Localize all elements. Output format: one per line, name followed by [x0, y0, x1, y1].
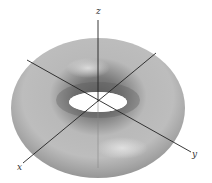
- z-axis-label: z: [96, 7, 101, 16]
- x-axis-label: x: [17, 163, 22, 172]
- torus-diagram: [0, 0, 212, 183]
- y-axis-label: y: [192, 150, 197, 159]
